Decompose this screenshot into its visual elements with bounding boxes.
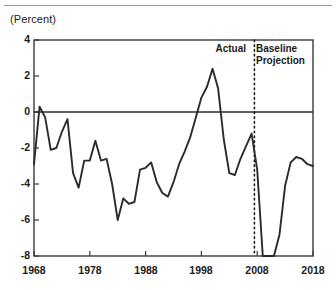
plot-frame <box>34 40 313 256</box>
data-series-line <box>34 69 313 256</box>
plot-area <box>0 0 336 290</box>
chart-figure: (Percent) 4 2 0 -2 -4 -6 -8 1968 1978 19… <box>0 0 336 290</box>
